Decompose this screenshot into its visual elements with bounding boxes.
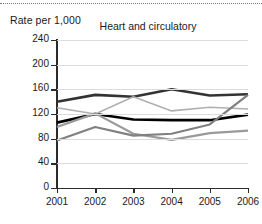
series-line-series-3-light-gray <box>57 97 248 114</box>
y-tick-mark <box>51 40 57 41</box>
y-tick-mark <box>51 114 57 115</box>
x-tick-mark <box>248 188 249 193</box>
chart-figure: Rate per 1,000 Heart and circulatory 040… <box>0 0 262 224</box>
y-tick-label: 240 <box>5 33 49 44</box>
y-tick-label: 160 <box>5 82 49 93</box>
gridline <box>57 139 248 140</box>
gridline <box>57 40 248 41</box>
y-tick-label: 0 <box>5 181 49 192</box>
y-tick-mark <box>51 139 57 140</box>
x-tick-mark <box>57 188 58 193</box>
x-tick-mark <box>133 188 134 193</box>
y-tick-mark <box>51 89 57 90</box>
gridline <box>57 114 248 115</box>
x-tick-mark <box>95 188 96 193</box>
gridline <box>57 89 248 90</box>
y-tick-label: 40 <box>5 156 49 167</box>
x-tick-label: 2001 <box>37 196 77 207</box>
x-tick-label: 2006 <box>228 196 262 207</box>
gridline <box>57 65 248 66</box>
plot-area <box>57 40 248 188</box>
y-axis-tick-labels: 04080120160200240 <box>0 0 49 224</box>
gridline <box>57 163 248 164</box>
y-tick-label: 80 <box>5 132 49 143</box>
y-tick-label: 200 <box>5 58 49 69</box>
x-tick-label: 2003 <box>113 196 153 207</box>
y-tick-mark <box>51 163 57 164</box>
series-line-series-1-dark-thick-upper <box>57 89 248 101</box>
x-tick-label: 2004 <box>152 196 192 207</box>
x-tick-label: 2002 <box>75 196 115 207</box>
x-tick-label: 2005 <box>190 196 230 207</box>
x-tick-mark <box>210 188 211 193</box>
x-tick-mark <box>172 188 173 193</box>
y-tick-label: 120 <box>5 107 49 118</box>
y-tick-mark <box>51 65 57 66</box>
